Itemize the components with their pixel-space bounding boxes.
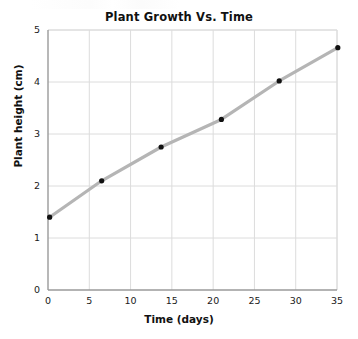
data-point-marker[interactable] xyxy=(159,144,164,149)
x-tick-label: 5 xyxy=(77,295,101,306)
x-tick-label: 25 xyxy=(242,295,266,306)
x-axis-title: Time (days) xyxy=(0,313,358,325)
y-tick-label: 2 xyxy=(24,180,40,191)
y-tick-label: 4 xyxy=(24,76,40,87)
x-tick-label: 15 xyxy=(160,295,184,306)
plot-area xyxy=(0,0,358,339)
data-line-series-0 xyxy=(50,48,338,218)
data-point-marker[interactable] xyxy=(47,215,52,220)
y-tick-label: 1 xyxy=(24,232,40,243)
y-tick-label: 5 xyxy=(24,24,40,35)
x-tick-label: 30 xyxy=(284,295,308,306)
x-tick-label: 10 xyxy=(119,295,143,306)
y-tick-label: 0 xyxy=(24,284,40,295)
x-tick-label: 35 xyxy=(325,295,349,306)
x-tick-label: 0 xyxy=(36,295,60,306)
chart-figure: Plant Growth Vs. Time 012345 05101520253… xyxy=(0,0,358,339)
data-point-marker[interactable] xyxy=(277,78,282,83)
series-line-group xyxy=(50,48,338,218)
axis-lines-group xyxy=(48,30,337,290)
gridlines-group xyxy=(48,30,337,290)
data-point-marker[interactable] xyxy=(99,178,104,183)
data-point-marker[interactable] xyxy=(219,117,224,122)
x-tick-label: 20 xyxy=(201,295,225,306)
y-axis-title: Plant height (cm) xyxy=(12,56,24,176)
data-point-marker[interactable] xyxy=(335,45,340,50)
y-tick-label: 3 xyxy=(24,128,40,139)
